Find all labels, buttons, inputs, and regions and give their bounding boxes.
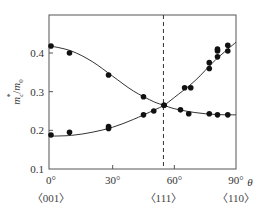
y-tick-label: 0.1 xyxy=(30,163,44,175)
x-tick-labels: 0°30°60°90° xyxy=(46,174,244,186)
data-point xyxy=(206,111,212,117)
data-point xyxy=(106,124,112,130)
crystal-direction-labels: 〈001〉〈111〉〈110〉 xyxy=(32,192,255,204)
effective-mass-chart: 0.10.20.30.4 0°30°60°90° 〈001〉〈111〉〈110〉… xyxy=(0,0,262,210)
data-point xyxy=(215,46,221,52)
x-tick-label: 0° xyxy=(46,174,56,186)
data-point xyxy=(141,112,147,118)
data-point xyxy=(186,111,192,117)
data-point xyxy=(106,72,112,78)
data-point xyxy=(225,112,231,118)
data-point xyxy=(206,66,212,72)
y-tick-labels: 0.10.20.30.4 xyxy=(30,47,44,175)
x-tick-label: 30° xyxy=(105,174,120,186)
data-point xyxy=(48,43,54,49)
y-tick-label: 0.2 xyxy=(30,124,44,136)
data-point xyxy=(67,50,73,56)
data-points xyxy=(48,42,230,137)
data-point xyxy=(141,94,147,100)
data-point xyxy=(215,112,221,118)
svg-text:mc*/m0: mc*/m0 xyxy=(6,79,25,105)
data-point xyxy=(178,107,184,113)
data-point xyxy=(151,108,157,114)
data-point xyxy=(182,85,188,91)
data-point xyxy=(206,60,212,66)
direction-label: 〈110〉 xyxy=(217,192,255,204)
fit-curve-increasing xyxy=(51,42,236,136)
y-tick-label: 0.3 xyxy=(30,86,44,98)
data-point xyxy=(161,102,167,108)
plot-frame xyxy=(49,15,236,169)
data-point xyxy=(48,132,54,138)
fit-curves xyxy=(51,42,236,136)
x-tick-label: 90° xyxy=(228,174,243,186)
direction-label: 〈001〉 xyxy=(32,192,71,204)
x-axis-label: θ xyxy=(247,176,253,188)
data-point xyxy=(225,48,231,54)
fit-curve-decreasing xyxy=(51,46,236,115)
y-axis-label: mc*/m0 xyxy=(6,79,25,105)
direction-label: 〈111〉 xyxy=(145,192,183,204)
data-point xyxy=(225,42,231,48)
y-tick-label: 0.4 xyxy=(30,47,44,59)
data-point xyxy=(188,85,194,91)
data-point xyxy=(215,54,221,60)
x-tick-label: 60° xyxy=(167,174,182,186)
data-point xyxy=(67,129,73,135)
